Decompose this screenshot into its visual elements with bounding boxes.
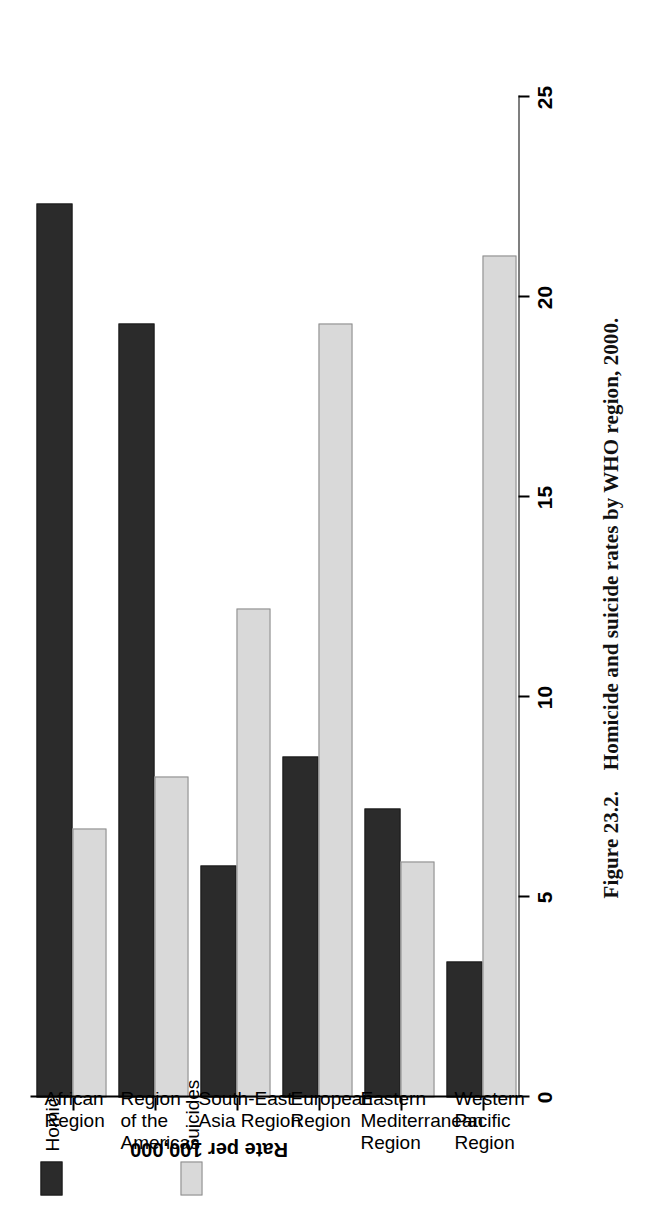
legend-swatch-homicides-icon xyxy=(40,1161,62,1195)
bar-suicides-african-region xyxy=(72,828,106,1097)
bar-homicides-european-region xyxy=(282,756,318,1097)
bar-homicides-region-of-the-americas xyxy=(118,323,154,1097)
bar-suicides-eastern-mediterranean-region xyxy=(400,861,434,1097)
value-ticklabel-20: 20 xyxy=(532,285,556,308)
figure-number: Figure 23.2. xyxy=(598,790,622,898)
value-tick-5 xyxy=(518,895,529,897)
category-label-south-east-asia-region: South-East Asia Region xyxy=(198,1087,300,1131)
value-ticklabel-25: 25 xyxy=(532,85,556,108)
bar-homicides-western-pacific-region xyxy=(446,961,482,1097)
category-label-western-pacific-region: Western Pacific Region xyxy=(454,1087,524,1153)
figure-caption: Figure 23.2. Homicide and suicide rates … xyxy=(598,0,623,1215)
category-labels: African Region Region of the Americas So… xyxy=(30,1096,519,1097)
bar-homicides-african-region xyxy=(36,203,72,1097)
bar-homicides-south-east-asia-region xyxy=(200,865,236,1097)
bar-suicides-european-region xyxy=(318,323,352,1097)
bar-suicides-region-of-the-americas xyxy=(154,776,188,1097)
value-ticklabel-5: 5 xyxy=(532,891,556,903)
value-ticklabel-0: 0 xyxy=(532,1091,556,1103)
legend-swatch-suicides-icon xyxy=(180,1161,202,1195)
value-tick-0 xyxy=(518,1095,529,1097)
figure-caption-text: Homicide and suicide rates by WHO region… xyxy=(598,317,622,770)
plot-area xyxy=(30,95,518,1097)
category-label-african-region: African Region xyxy=(44,1087,104,1131)
value-tick-10 xyxy=(518,695,529,697)
bar-suicides-western-pacific-region xyxy=(482,255,516,1097)
value-tick-20 xyxy=(518,295,529,297)
category-label-region-of-the-americas: Region of the Americas xyxy=(120,1087,199,1153)
value-ticklabel-10: 10 xyxy=(532,685,556,708)
bar-suicides-south-east-asia-region xyxy=(236,608,270,1097)
value-tick-15 xyxy=(518,495,529,497)
value-ticklabel-15: 15 xyxy=(532,485,556,508)
rotated-figure-stage: Homicides Suicides Rate per 100,000 xyxy=(0,0,661,1215)
value-tick-25 xyxy=(518,95,529,97)
value-axis-line: 0 5 10 15 20 25 xyxy=(518,95,519,1097)
bar-homicides-eastern-mediterranean-region xyxy=(364,808,400,1097)
